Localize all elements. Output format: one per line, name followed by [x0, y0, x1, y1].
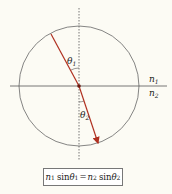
formula-equals: = — [79, 172, 86, 182]
formula-n2-sub: 2 — [93, 174, 97, 181]
n1-label: n1 — [149, 74, 159, 85]
formula-sin1: sin — [57, 172, 70, 182]
refraction-diagram: θ1 θ2 n1 n2 — [0, 0, 172, 194]
n2-label: n2 — [149, 88, 159, 99]
formula-n1-sub: 1 — [51, 174, 55, 181]
theta2-arc — [79, 101, 84, 102]
theta1-arc — [71, 68, 79, 70]
snell-law-formula: n1 sinθ1 = n2 sinθ2 — [43, 168, 123, 186]
formula-sin2: sin — [99, 172, 112, 182]
theta1-label: θ1 — [67, 56, 76, 67]
formula-theta1-sub: 1 — [75, 174, 79, 181]
formula-theta2-sub: 2 — [117, 174, 121, 181]
incidence-point — [77, 84, 81, 88]
